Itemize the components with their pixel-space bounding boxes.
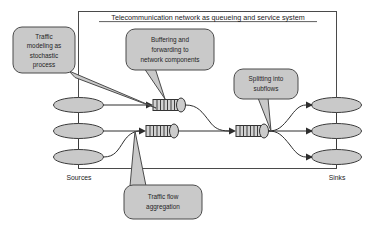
- splitting-subflows-callout-body[interactable]: [234, 69, 298, 99]
- buffering-forwarding-callout-line-2: forwarding to: [152, 46, 189, 54]
- flow-split-to-sink3: [269, 131, 307, 157]
- queue-2[interactable]: [146, 124, 179, 138]
- splitting-subflows-callout-line-2: subflows: [254, 85, 279, 92]
- queue-2-server: [170, 124, 179, 138]
- traffic-flow-aggregation-callout-line-2: aggregation: [146, 203, 180, 211]
- source-2[interactable]: [54, 124, 104, 139]
- sink-1[interactable]: [312, 98, 362, 113]
- arrow-head-queue3-in: [229, 128, 236, 135]
- flow-split-to-sink1: [269, 105, 307, 131]
- traffic-modeling-callout-line-2: modeling as: [27, 42, 61, 50]
- buffering-forwarding-callout-line-1: Buffering and: [151, 36, 189, 44]
- buffering-forwarding-callout-tail: [144, 68, 165, 99]
- arrow-head-sink3-in: [306, 154, 313, 161]
- source-1[interactable]: [54, 98, 104, 113]
- queue-3-server: [260, 124, 269, 138]
- queue-3[interactable]: [236, 124, 269, 138]
- traffic-modeling-callout-line-1: Traffic: [35, 33, 53, 40]
- source-3[interactable]: [54, 150, 104, 165]
- arrow-head-queue2-in: [139, 128, 146, 135]
- diagram-title: Telecommunication network as queueing an…: [111, 13, 304, 22]
- traffic-flow-aggregation-callout-tail: [130, 131, 146, 186]
- network-queueing-diagram: Telecommunication network as queueing an…: [0, 0, 365, 233]
- splitting-subflows-callout-line-1: Splitting into: [249, 75, 284, 83]
- queue-1[interactable]: [153, 98, 186, 112]
- arrow-head-sink2-in: [306, 128, 313, 135]
- traffic-flow-aggregation-callout-body[interactable]: [124, 185, 202, 219]
- sources-label: Sources: [67, 174, 93, 181]
- flow-queue1-to-queue3: [186, 105, 230, 131]
- traffic-modeling-callout-line-3: stochastic: [30, 52, 59, 59]
- sink-2[interactable]: [312, 124, 362, 139]
- queue-1-server: [177, 98, 186, 112]
- sinks-label: Sinks: [329, 174, 346, 181]
- sink-3[interactable]: [312, 150, 362, 165]
- arrow-head-sink1-in: [306, 102, 313, 109]
- buffering-forwarding-callout-line-3: network components: [141, 56, 200, 64]
- traffic-flow-aggregation-callout-line-1: Traffic flow: [148, 193, 179, 200]
- traffic-modeling-callout-line-4: process: [33, 61, 55, 69]
- diagram-canvas: Telecommunication network as queueing an…: [0, 0, 365, 233]
